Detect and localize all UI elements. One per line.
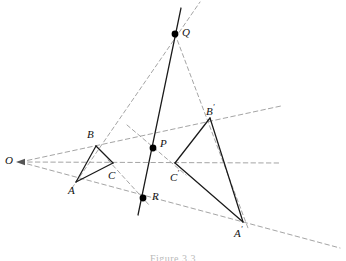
triangle-ABC-side-BC <box>96 146 113 163</box>
label-prime-mark-a-prime: ′ <box>241 225 243 234</box>
axis-line-PQR <box>138 8 181 215</box>
point-label-b: B <box>87 129 94 140</box>
perspective-ray-O-A-A' <box>20 162 340 248</box>
point-label-c-prime: C′ <box>170 170 179 183</box>
triangle-A'B'C'-side-A'B' <box>210 118 243 222</box>
point-label-o: O <box>5 155 13 166</box>
point-marker-p <box>150 145 157 152</box>
perspective-ray-O-C-C' <box>20 162 281 163</box>
label-prime-mark-c-prime: ′ <box>177 169 179 178</box>
extension-lines-group <box>72 2 248 228</box>
point-label-r: R <box>152 191 159 202</box>
figure-caption: Figure 3.3 <box>0 253 346 261</box>
label-base-b-prime: B <box>206 105 213 117</box>
extension-AB-to-Q <box>72 2 200 188</box>
point-marker-r <box>140 195 147 202</box>
point-label-p: P <box>160 138 167 149</box>
point-label-q: Q <box>182 27 190 38</box>
arrowhead-at-o-icon <box>16 159 25 165</box>
point-marker-q <box>172 31 179 38</box>
label-base-a-prime: A <box>234 227 241 239</box>
point-label-b-prime: B′ <box>206 104 214 117</box>
perspective-rays-group <box>20 106 340 248</box>
geometry-canvas <box>0 0 346 261</box>
arrowheads-group <box>16 159 25 165</box>
axis-lines-group <box>138 8 181 215</box>
point-label-a-prime: A′ <box>234 226 242 239</box>
point-label-c: C <box>108 170 115 181</box>
extension-A'B'-to-Q <box>175 34 248 228</box>
point-label-a: A <box>68 185 75 196</box>
triangle-A'B'C'-side-B'C' <box>175 118 210 163</box>
label-prime-mark-b-prime: ′ <box>213 103 215 112</box>
desargues-figure: OABCA′B′C′PQR Figure 3.3 <box>0 0 346 261</box>
triangle-sides-group <box>76 118 243 222</box>
